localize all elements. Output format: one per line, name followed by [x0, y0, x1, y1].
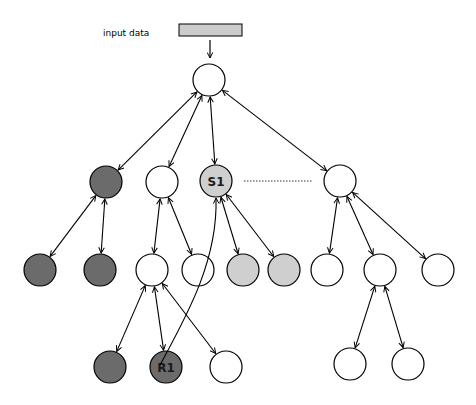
bidirectional-edge — [117, 286, 145, 352]
node-c2 — [364, 254, 396, 286]
node-circle — [182, 254, 214, 286]
node-circle — [422, 254, 454, 286]
bidirectional-edge — [101, 199, 105, 253]
node-circle — [193, 64, 225, 96]
node-circle — [146, 166, 178, 198]
bidirectional-edge — [329, 198, 337, 253]
bidirectional-edge — [210, 97, 215, 164]
bidirectional-edge — [50, 196, 96, 257]
node-a2 — [84, 254, 116, 286]
bidirectional-edge — [385, 286, 403, 347]
node-b — [146, 166, 178, 198]
node-c — [324, 165, 356, 197]
node-circle — [311, 254, 343, 286]
node-circle — [136, 254, 168, 286]
bidirectional-edge — [355, 286, 375, 348]
node-circle — [268, 254, 300, 286]
bidirectional-edge — [154, 287, 163, 350]
node-circle — [334, 348, 366, 380]
node-circle — [227, 254, 259, 286]
tree-diagram: input data S1R1 — [0, 0, 476, 405]
edges-layer — [50, 90, 425, 353]
node-circle — [90, 166, 122, 198]
input-data-label: input data — [103, 28, 149, 38]
node-b1 — [136, 254, 168, 286]
bidirectional-edge — [347, 197, 373, 255]
node-a — [90, 166, 122, 198]
node-b1a — [94, 351, 126, 383]
node-root — [193, 64, 225, 96]
node-s1: S1 — [200, 165, 232, 197]
bidirectional-edge — [222, 90, 326, 170]
nodes-layer: S1R1 — [24, 64, 454, 383]
bidirectional-edge — [168, 198, 191, 255]
bidirectional-edge — [226, 195, 273, 257]
node-label: R1 — [157, 361, 175, 375]
node-circle — [364, 254, 396, 286]
node-circle — [392, 348, 424, 380]
node-c1 — [311, 254, 343, 286]
bidirectional-edge — [154, 199, 160, 253]
node-label: S1 — [208, 175, 225, 189]
node-a1 — [24, 254, 56, 286]
node-circle — [210, 351, 242, 383]
node-s1b — [268, 254, 300, 286]
node-c2a — [334, 348, 366, 380]
node-circle — [24, 254, 56, 286]
node-s1a — [227, 254, 259, 286]
node-r1: R1 — [150, 351, 182, 383]
node-b1c — [210, 351, 242, 383]
node-c2b — [392, 348, 424, 380]
bidirectional-edge — [169, 95, 202, 166]
node-b2 — [182, 254, 214, 286]
node-circle — [94, 351, 126, 383]
bidirectional-edge — [353, 192, 426, 258]
bidirectional-edge — [162, 284, 215, 354]
node-circle — [84, 254, 116, 286]
node-circle — [324, 165, 356, 197]
input-data-box — [179, 24, 242, 36]
node-c3 — [422, 254, 454, 286]
